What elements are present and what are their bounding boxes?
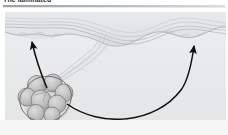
figure-header: The laminated — [0, 0, 228, 4]
footer-strip — [0, 120, 228, 135]
illustration-svg — [5, 12, 226, 120]
illustration-panel — [5, 12, 226, 120]
cluster-lobe — [44, 107, 60, 120]
figure-page: The laminated — [0, 0, 228, 135]
page-title: The laminated — [3, 0, 51, 4]
header-divider-shadow — [3, 7, 225, 8]
